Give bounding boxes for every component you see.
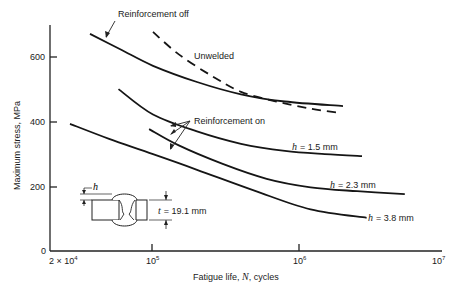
arrowhead-icon	[170, 129, 176, 135]
y-axis-title: Maximum stress, MPa	[12, 101, 22, 190]
arrowhead-icon	[164, 220, 168, 225]
y-tick-label-200: 200	[30, 182, 45, 192]
label-h-1-5: h= 1.5 mm	[292, 141, 338, 152]
arrowhead-icon	[170, 143, 174, 150]
y-tick-label-600: 600	[30, 52, 45, 62]
inset-t-label: t= 19.1 mm	[158, 205, 207, 216]
label-unwelded: Unwelded	[194, 51, 234, 61]
fatigue-chart: 600 400 200 0 2 × 104 105 106 107 Fatigu…	[0, 0, 457, 290]
label-reinforcement-on: Reinforcement on	[194, 116, 265, 126]
y-tick-label-0: 0	[41, 246, 46, 256]
x-tick-label-2e4: 2 × 104	[49, 255, 78, 266]
x-tick-label-1e7: 107	[432, 255, 446, 266]
label-h-3-8: h= 3.8 mm	[368, 212, 414, 223]
x-tick-label-1e6: 106	[293, 255, 307, 266]
arrowhead-icon	[164, 195, 168, 200]
label-h-2-3: h= 2.3 mm	[330, 179, 376, 190]
inset-h-label: h	[93, 181, 98, 192]
x-tick-label-1e5: 105	[146, 255, 160, 266]
x-axis-title: Fatigue life, N, cycles	[193, 271, 279, 282]
series-unwelded	[153, 32, 340, 113]
arrowhead-icon	[82, 200, 86, 204]
label-reinforcement-off: Reinforcement off	[118, 9, 189, 19]
arrowhead-icon	[82, 190, 86, 194]
series-reinforcement-off	[90, 34, 343, 106]
weld-cross-section-inset: h t= 19.1 mm	[80, 181, 207, 229]
y-tick-label-400: 400	[30, 117, 45, 127]
